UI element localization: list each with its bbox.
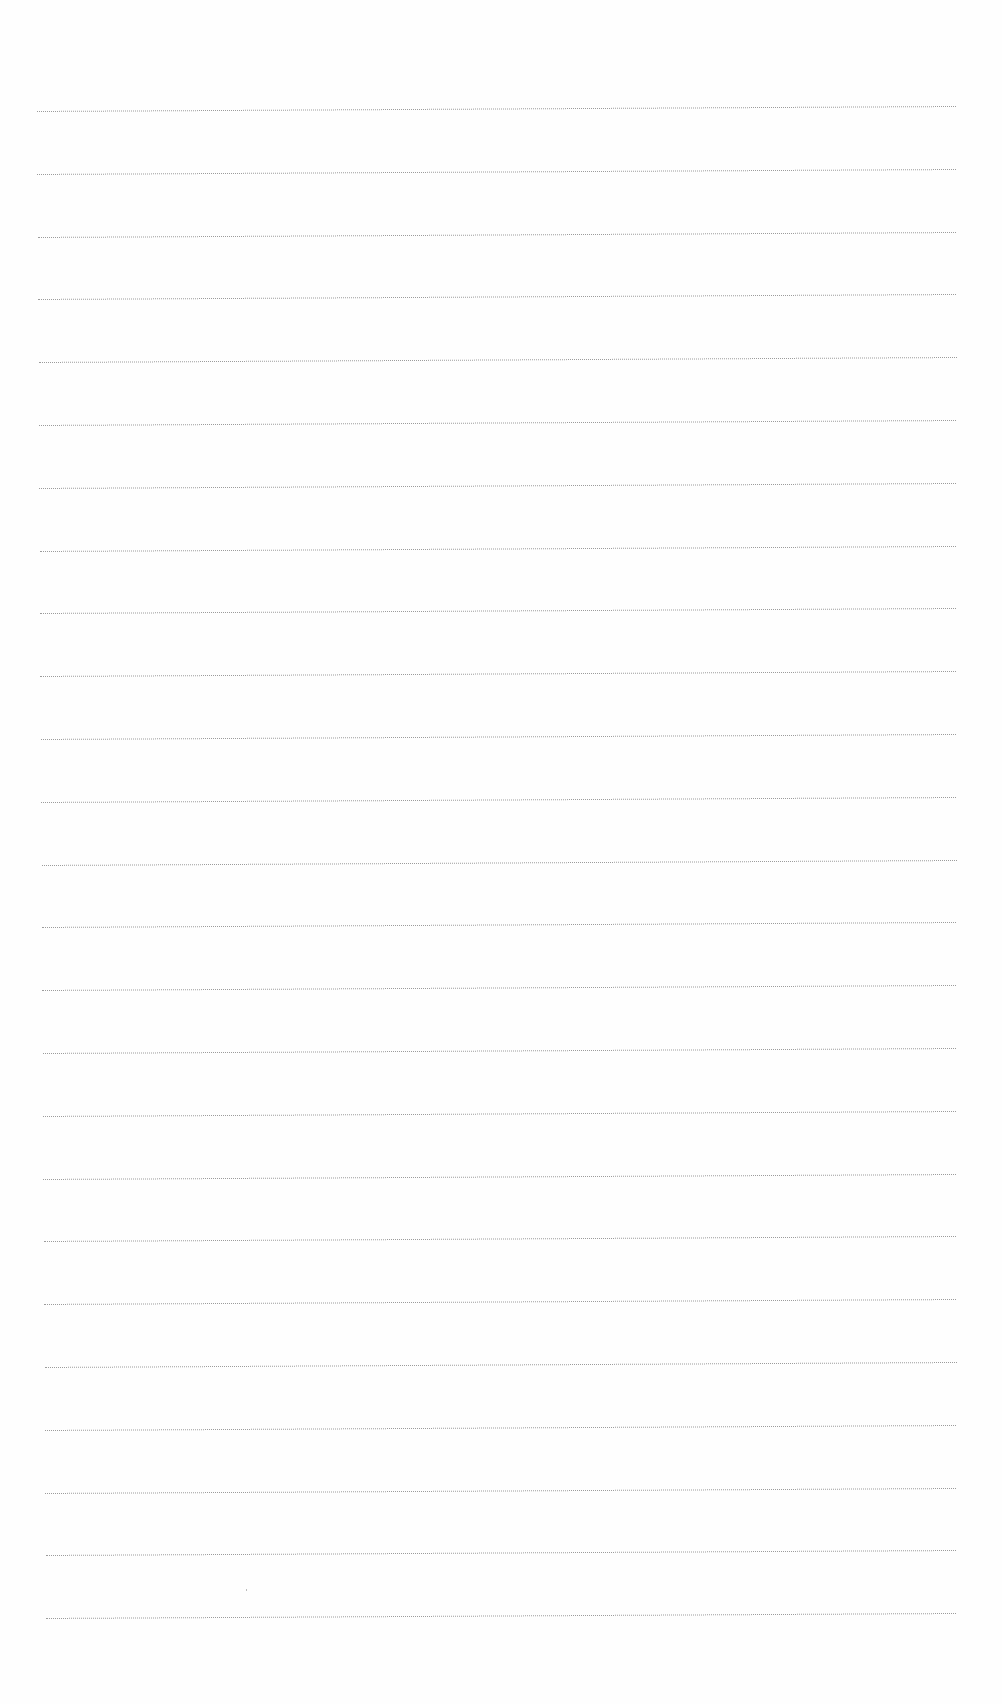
ruled-line — [44, 1236, 956, 1243]
ruled-line — [40, 671, 956, 678]
ruled-line — [38, 294, 956, 301]
ruled-line — [45, 1425, 956, 1432]
ruled-line — [39, 420, 956, 427]
paper-speck — [246, 1589, 247, 1591]
ruled-line — [43, 1048, 956, 1055]
ruled-line — [41, 860, 955, 867]
ruled-line — [37, 169, 956, 176]
ruled-line — [44, 1299, 956, 1306]
ruled-line — [42, 922, 956, 929]
ruled-line — [43, 1111, 956, 1118]
ruled-line — [46, 1613, 956, 1620]
ruled-line — [37, 106, 956, 113]
ruled-line — [40, 608, 956, 615]
ruled-line — [38, 232, 956, 239]
ruled-line — [44, 1362, 955, 1369]
ruled-line — [45, 1488, 956, 1495]
ruled-line — [41, 797, 956, 804]
lined-paper-sheet — [0, 0, 1002, 1704]
ruled-line — [41, 734, 956, 741]
ruled-line — [43, 1174, 956, 1181]
ruled-line — [42, 985, 956, 992]
ruled-line — [46, 1550, 956, 1557]
ruled-line — [40, 546, 956, 553]
ruled-line — [39, 483, 956, 490]
ruled-line — [38, 357, 955, 364]
